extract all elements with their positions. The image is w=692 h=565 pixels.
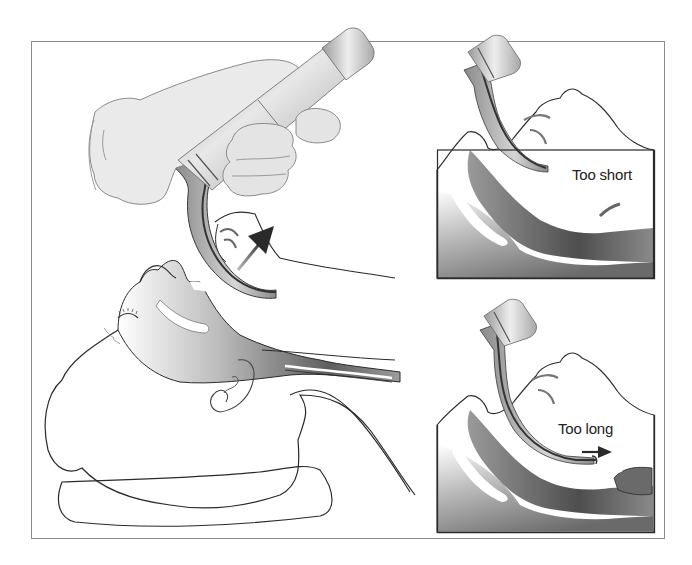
infant-face-airway	[118, 260, 400, 382]
inset-too-short	[437, 35, 655, 278]
main-panel	[45, 28, 415, 526]
inset-too-long	[437, 299, 655, 532]
shoulder-roll	[58, 467, 332, 527]
laryngoscopy-illustration	[0, 0, 692, 565]
label-too-long: Too long	[558, 420, 613, 437]
label-too-short: Too short	[572, 166, 632, 183]
lift-direction-arrow	[238, 226, 274, 270]
